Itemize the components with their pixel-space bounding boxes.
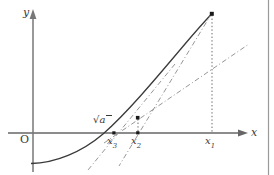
origin-label: O <box>20 134 29 145</box>
x-axis-label: x <box>251 127 257 138</box>
radicand: a <box>99 114 105 125</box>
y-axis <box>30 9 37 172</box>
x1-base: x <box>205 135 211 146</box>
point-marker-x1-curve <box>210 12 214 16</box>
x3-tick-label: x3 <box>107 136 117 149</box>
y-axis-label: y <box>23 7 29 18</box>
parabola-curve <box>31 14 212 164</box>
sqrt-a-label: √a <box>93 114 105 125</box>
x1-tick-label: x1 <box>205 136 215 149</box>
point-marker-x2-axis <box>136 131 139 134</box>
point-marker-x2-curve <box>136 116 140 120</box>
x2-base: x <box>131 135 137 146</box>
radicand-wrap: a <box>99 114 105 125</box>
x1-subscript: 1 <box>211 142 215 150</box>
x3-subscript: 3 <box>113 142 117 150</box>
radical-bar <box>106 115 112 116</box>
x2-tick-label: x2 <box>131 136 141 149</box>
newton-method-figure: y x O √a x1 x2 x3 <box>0 0 274 175</box>
tangent-line-at-x3 <box>104 44 249 143</box>
x2-subscript: 2 <box>137 142 141 150</box>
x3-base: x <box>107 135 113 146</box>
